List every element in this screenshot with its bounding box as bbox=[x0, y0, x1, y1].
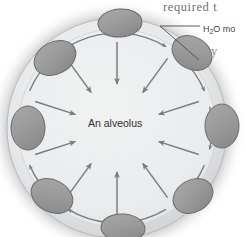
alveolus-center-label: An alveolus bbox=[88, 117, 142, 129]
body-text-fragment: y bbox=[211, 44, 218, 59]
h2o-label-suffix: O mo bbox=[213, 24, 235, 34]
h2o-label-subscript: 2 bbox=[210, 28, 214, 35]
h2o-molecules-label: H2O mo bbox=[203, 24, 235, 34]
h2o-label-prefix: H bbox=[203, 24, 210, 34]
cell-right bbox=[205, 104, 239, 148]
body-text-top: required t bbox=[163, 0, 217, 15]
cell-left bbox=[11, 106, 45, 150]
alveolus-figure: required t y H2O mo An alveolus bbox=[0, 0, 246, 237]
